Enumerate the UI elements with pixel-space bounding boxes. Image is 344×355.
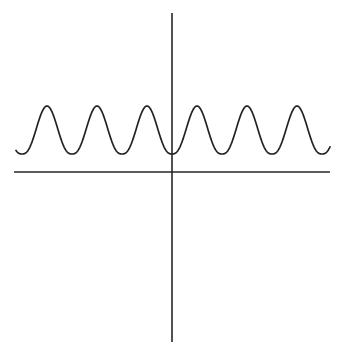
plot-canvas [0, 0, 344, 355]
graph-figure [0, 0, 344, 355]
